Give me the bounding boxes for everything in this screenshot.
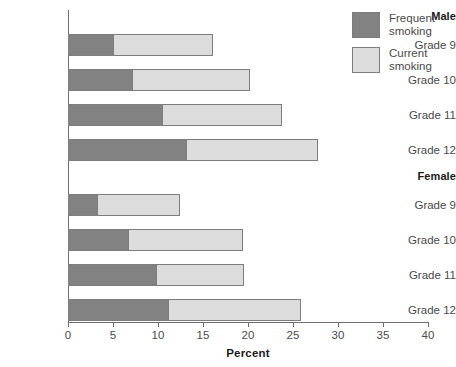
segment-frequent-smoking <box>68 104 162 126</box>
legend-label-frequent-line1: Frequent <box>389 12 435 24</box>
legend-swatch-frequent-icon <box>352 12 380 38</box>
segment-frequent-smoking <box>68 229 128 251</box>
segment-current-smoking <box>97 194 180 216</box>
legend-label-current: Current smoking <box>389 47 432 73</box>
segment-frequent-smoking <box>68 139 186 161</box>
legend-label-current-line2: smoking <box>389 60 432 73</box>
bar-male-grade-11 <box>68 104 282 126</box>
bar-male-grade-9 <box>68 34 213 56</box>
x-tick-0 <box>68 322 69 327</box>
bar-male-grade-10 <box>68 69 250 91</box>
segment-current-smoking <box>113 34 213 56</box>
segment-current-smoking <box>162 104 283 126</box>
legend-label-current-line1: Current <box>389 47 427 59</box>
bar-female-grade-11 <box>68 264 244 286</box>
x-tick-label-10: 10 <box>143 329 173 341</box>
bar-male-grade-12 <box>68 139 318 161</box>
x-tick-label-15: 15 <box>188 329 218 341</box>
legend-entry-current: Current smoking <box>352 47 456 73</box>
x-tick-label-0: 0 <box>53 329 83 341</box>
segment-current-smoking <box>186 139 318 161</box>
segment-current-smoking <box>128 229 242 251</box>
legend-swatch-current-icon <box>352 47 380 73</box>
segment-frequent-smoking <box>68 299 168 321</box>
x-tick-5 <box>113 322 114 327</box>
x-tick-label-5: 5 <box>98 329 128 341</box>
bar-female-grade-12 <box>68 299 301 321</box>
x-tick-label-40: 40 <box>413 329 443 341</box>
x-axis-title: Percent <box>68 347 428 359</box>
legend-label-frequent: Frequent smoking <box>389 12 435 38</box>
x-tick-40 <box>428 322 429 327</box>
segment-current-smoking <box>132 69 250 91</box>
segment-frequent-smoking <box>68 264 156 286</box>
segment-frequent-smoking <box>68 194 97 216</box>
legend-entry-frequent: Frequent smoking <box>352 12 456 38</box>
x-tick-label-35: 35 <box>368 329 398 341</box>
x-tick-35 <box>383 322 384 327</box>
bar-female-grade-9 <box>68 194 180 216</box>
segment-frequent-smoking <box>68 69 132 91</box>
x-tick-15 <box>203 322 204 327</box>
x-tick-label-20: 20 <box>233 329 263 341</box>
segment-current-smoking <box>156 264 244 286</box>
legend: Frequent smoking Current smoking <box>352 12 456 82</box>
bar-female-grade-10 <box>68 229 243 251</box>
x-tick-25 <box>293 322 294 327</box>
x-tick-10 <box>158 322 159 327</box>
x-tick-label-25: 25 <box>278 329 308 341</box>
legend-label-frequent-line2: smoking <box>389 25 435 38</box>
segment-frequent-smoking <box>68 34 113 56</box>
x-tick-20 <box>248 322 249 327</box>
stacked-bar-chart: Male Female Grade 9 Grade 10 Grade 11 Gr… <box>0 0 456 367</box>
x-tick-30 <box>338 322 339 327</box>
segment-current-smoking <box>168 299 301 321</box>
x-tick-label-30: 30 <box>323 329 353 341</box>
